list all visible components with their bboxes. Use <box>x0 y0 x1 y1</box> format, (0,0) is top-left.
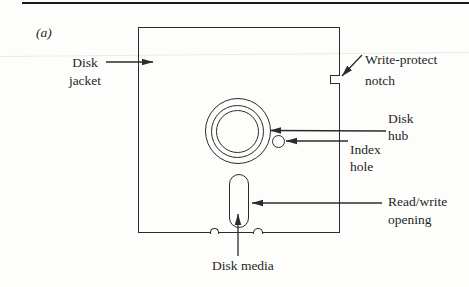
label-index-hole-line2: hole <box>350 158 381 175</box>
floppy-disk-figure: (a) Disk jacket Write-protect notch <box>0 0 469 287</box>
label-index-hole: Index hole <box>350 141 381 175</box>
label-disk-jacket: Disk jacket <box>61 54 109 90</box>
label-read-write-opening: Read/write opening <box>388 193 447 229</box>
label-disk-hub: Disk hub <box>388 110 414 144</box>
index-hole-circle <box>272 135 285 148</box>
label-read-write-line1: Read/write <box>388 193 447 211</box>
bottom-notch-left <box>210 228 219 234</box>
top-rule-divider <box>22 2 469 4</box>
label-write-protect-line2: notch <box>365 70 437 91</box>
panel-label: (a) <box>36 24 52 42</box>
label-index-hole-line1: Index <box>350 141 381 158</box>
label-disk-hub-line1: Disk <box>388 110 414 127</box>
label-disk-jacket-line2: jacket <box>61 72 109 90</box>
label-disk-hub-line2: hub <box>388 127 414 144</box>
label-write-protect-line1: Write-protect <box>365 49 437 70</box>
read-write-opening-slot <box>229 174 249 228</box>
label-read-write-line2: opening <box>388 211 447 229</box>
label-write-protect-notch: Write-protect notch <box>365 49 437 91</box>
label-disk-media: Disk media <box>212 257 274 275</box>
disk-hub-inner-ring <box>216 110 259 153</box>
label-disk-jacket-line1: Disk <box>61 54 109 72</box>
write-protect-notch-arrow <box>342 55 362 76</box>
write-protect-notch-shape <box>330 75 340 84</box>
bottom-notch-right <box>253 228 263 234</box>
